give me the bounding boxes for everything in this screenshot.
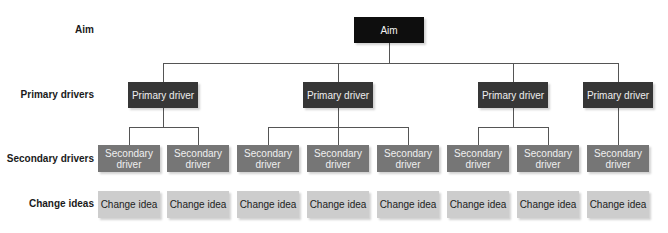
secondary-driver-box: Secondary driver	[167, 145, 229, 172]
row-label-aim: Aim	[75, 24, 94, 35]
connector-primary-down	[513, 108, 514, 127]
row-label-primary-drivers: Primary drivers	[21, 89, 94, 100]
change-idea-box: Change idea	[587, 191, 649, 218]
row-label-change-ideas: Change ideas	[29, 198, 94, 209]
connector-primary-drop	[618, 63, 619, 82]
connector-secondary-drop	[268, 127, 269, 145]
primary-driver-box: Primary driver	[303, 82, 373, 108]
connector-primary-bus	[163, 63, 619, 64]
connector-aim-down	[389, 43, 390, 63]
change-idea-box: Change idea	[307, 191, 369, 218]
connector-secondary-drop	[618, 127, 619, 145]
connector-secondary-drop	[129, 127, 130, 145]
secondary-driver-box: Secondary driver	[447, 145, 509, 172]
secondary-driver-box: Secondary driver	[307, 145, 369, 172]
change-idea-box: Change idea	[517, 191, 579, 218]
change-idea-box: Change idea	[98, 191, 160, 218]
primary-driver-box: Primary driver	[478, 82, 548, 108]
connector-secondary-bus	[478, 127, 549, 128]
change-idea-box: Change idea	[447, 191, 509, 218]
secondary-driver-box: Secondary driver	[587, 145, 649, 172]
connector-secondary-drop	[338, 127, 339, 145]
row-label-secondary-drivers: Secondary drivers	[7, 153, 94, 164]
change-idea-box: Change idea	[377, 191, 439, 218]
primary-driver-box: Primary driver	[583, 82, 653, 108]
connector-primary-drop	[513, 63, 514, 82]
connector-secondary-bus	[129, 127, 199, 128]
secondary-driver-box: Secondary driver	[517, 145, 579, 172]
primary-driver-box: Primary driver	[128, 82, 198, 108]
connector-secondary-drop	[548, 127, 549, 145]
connector-secondary-drop	[408, 127, 409, 145]
connector-secondary-drop	[478, 127, 479, 145]
connector-primary-drop	[163, 63, 164, 82]
secondary-driver-box: Secondary driver	[237, 145, 299, 172]
connector-primary-down	[163, 108, 164, 127]
connector-primary-drop	[338, 63, 339, 82]
connector-secondary-drop	[198, 127, 199, 145]
connector-primary-down	[618, 108, 619, 127]
secondary-driver-box: Secondary driver	[377, 145, 439, 172]
secondary-driver-box: Secondary driver	[98, 145, 160, 172]
aim-box: Aim	[354, 17, 424, 43]
change-idea-box: Change idea	[237, 191, 299, 218]
connector-primary-down	[338, 108, 339, 127]
change-idea-box: Change idea	[167, 191, 229, 218]
